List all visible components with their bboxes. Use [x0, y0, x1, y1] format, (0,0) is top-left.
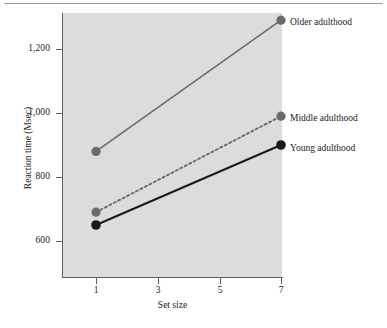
series-older-adulthood [91, 16, 285, 156]
series-middle-adulthood [91, 112, 285, 217]
figure-container: 1,200 1,000 800 600 1 3 5 7 Reaction tim… [0, 0, 387, 328]
data-point-older-7 [276, 16, 285, 25]
data-point-young-7 [276, 140, 286, 150]
series-line-young [96, 145, 281, 225]
data-point-middle-7 [276, 112, 285, 121]
data-point-older-1 [91, 147, 100, 156]
data-point-middle-1 [91, 208, 100, 217]
series-label-middle: Middle adulthood [290, 113, 358, 123]
series-line-middle [96, 116, 281, 212]
series-label-young: Young adulthood [290, 143, 355, 153]
series-young-adulthood [91, 140, 286, 230]
series-label-older: Older adulthood [290, 17, 352, 27]
plot-svg [0, 0, 387, 328]
series-line-older [96, 20, 281, 151]
data-point-young-1 [91, 220, 101, 230]
